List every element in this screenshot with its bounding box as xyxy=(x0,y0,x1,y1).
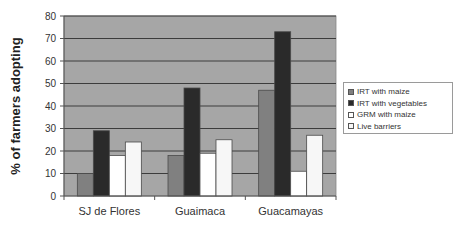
plot-area xyxy=(64,16,336,196)
bar xyxy=(125,142,141,196)
x-tick-label: Guaimaca xyxy=(175,205,226,217)
y-tick-label: 50 xyxy=(45,78,57,89)
bar xyxy=(259,90,275,196)
legend-label: IRT with maize xyxy=(357,87,410,96)
chart-legend: IRT with maizeIRT with vegetablesGRM wit… xyxy=(343,82,453,134)
bar xyxy=(77,174,93,197)
legend-label: IRT with vegetables xyxy=(357,99,427,108)
y-tick-label: 30 xyxy=(45,123,57,134)
bar xyxy=(184,88,200,196)
y-tick-label: 40 xyxy=(45,101,57,112)
legend-item: GRM with maize xyxy=(348,109,448,121)
legend-swatch-icon xyxy=(348,112,354,118)
bar xyxy=(275,32,291,196)
y-tick-label: 60 xyxy=(45,56,57,67)
legend-item: IRT with vegetables xyxy=(348,98,448,110)
x-tick-label: SJ de Flores xyxy=(78,205,140,217)
bar xyxy=(168,156,184,197)
legend-label: Live barriers xyxy=(357,122,401,131)
bar xyxy=(109,156,125,197)
x-axis: SJ de FloresGuaimacaGuacamayas xyxy=(64,196,336,217)
bar xyxy=(200,153,216,196)
bar xyxy=(216,140,232,196)
bar xyxy=(291,171,307,196)
legend-item: Live barriers xyxy=(348,121,448,133)
y-tick-label: 80 xyxy=(45,11,57,22)
y-tick-label: 20 xyxy=(45,146,57,157)
legend-label: GRM with maize xyxy=(357,110,416,119)
y-tick-label: 0 xyxy=(50,191,56,202)
legend-swatch-icon xyxy=(348,100,354,106)
bar xyxy=(93,131,109,196)
y-tick-label: 10 xyxy=(45,168,57,179)
legend-item: IRT with maize xyxy=(348,86,448,98)
y-axis: 01020304050607080 xyxy=(45,11,64,202)
bar xyxy=(307,135,323,196)
legend-swatch-icon xyxy=(348,89,354,95)
legend-swatch-icon xyxy=(348,123,354,129)
x-tick-label: Guacamayas xyxy=(258,205,323,217)
y-axis-label: % of farmers adopting xyxy=(8,37,23,174)
y-tick-label: 70 xyxy=(45,33,57,44)
